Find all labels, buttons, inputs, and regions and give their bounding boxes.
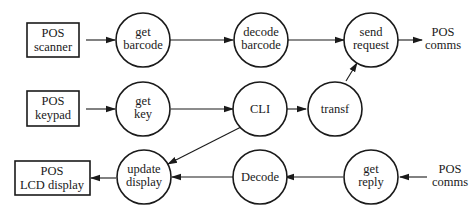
node-label: get [135,94,151,108]
edge-transf-to-send-request [346,63,357,81]
node-label: display [126,175,163,189]
node-label: POS [432,25,455,39]
node-label: scanner [34,40,73,54]
node-pos-lcd-display: POS LCD display [15,161,90,195]
data-flow-diagram: POS scanner get barcode decode barcode s… [0,0,475,218]
node-label: POS [439,162,462,176]
node-label: LCD display [20,178,85,192]
node-decode: Decode [233,150,287,204]
node-label: reply [358,175,384,189]
node-label: comms [425,38,461,52]
node-label: update [127,162,161,176]
node-get-reply: get reply [344,150,398,204]
node-label: POS [42,26,65,40]
node-decode-barcode: decode barcode [234,13,288,67]
node-label: comms [432,175,468,189]
node-label: request [353,38,390,52]
node-label: POS [41,164,64,178]
node-cli: CLI [233,82,287,136]
node-label: POS [42,94,65,108]
node-label: CLI [250,102,270,116]
node-pos-comms-in: POS comms [432,162,468,189]
node-label: get [363,162,379,176]
node-label: decode [243,25,279,39]
node-transf: transf [308,82,362,136]
node-label: transf [321,102,350,116]
node-label: get [135,25,151,39]
node-get-key: get key [116,82,170,136]
node-get-barcode: get barcode [116,13,170,67]
node-label: barcode [123,38,163,52]
node-update-display: update display [117,150,171,204]
node-pos-comms-out: POS comms [425,25,461,52]
node-label: Decode [241,170,280,184]
node-label: send [360,25,384,39]
edge-cli-to-update-display [168,127,241,164]
node-label: barcode [241,38,281,52]
node-pos-keypad: POS keypad [27,91,79,126]
node-label: key [134,107,153,121]
node-send-request: send request [344,13,398,67]
node-label: keypad [35,108,72,122]
node-pos-scanner: POS scanner [27,23,79,57]
